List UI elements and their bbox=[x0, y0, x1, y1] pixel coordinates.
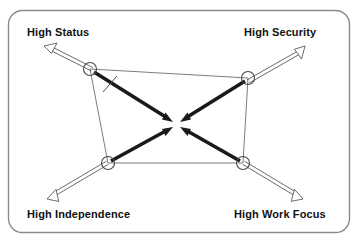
node-label-high-independence: High Independence bbox=[27, 208, 130, 220]
node-label-high-status: High Status bbox=[27, 26, 89, 38]
node-label-high-work-focus: High Work Focus bbox=[234, 208, 326, 220]
node-label-high-security: High Security bbox=[244, 26, 316, 38]
diagram-canvas: High Status High Security High Independe… bbox=[0, 0, 359, 243]
